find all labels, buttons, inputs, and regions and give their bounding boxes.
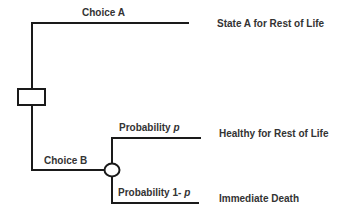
outcome-healthy-label: Healthy for Rest of Life xyxy=(219,128,328,140)
outcome-death-label: Immediate Death xyxy=(219,193,299,205)
decision-node-square-icon xyxy=(18,89,45,105)
choice-b-label: Choice B xyxy=(44,155,87,167)
probability-p-variable: p xyxy=(173,122,179,133)
probability-p-branch-line xyxy=(112,138,200,163)
choice-a-branch-line xyxy=(32,23,188,170)
tree-lines xyxy=(0,0,342,218)
outcome-state-a-label: State A for Rest of Life xyxy=(217,18,324,30)
chance-node-circle-icon xyxy=(105,164,120,177)
probability-1-minus-p-prefix: Probability 1- xyxy=(118,187,184,198)
probability-p-prefix: Probability xyxy=(119,122,173,133)
decision-tree-diagram: Choice A State A for Rest of Life Choice… xyxy=(0,0,342,218)
probability-p-label: Probability p xyxy=(119,122,180,134)
probability-1-minus-p-variable: p xyxy=(184,187,190,198)
probability-1-minus-p-label: Probability 1- p xyxy=(118,187,190,199)
choice-a-label: Choice A xyxy=(82,7,125,19)
